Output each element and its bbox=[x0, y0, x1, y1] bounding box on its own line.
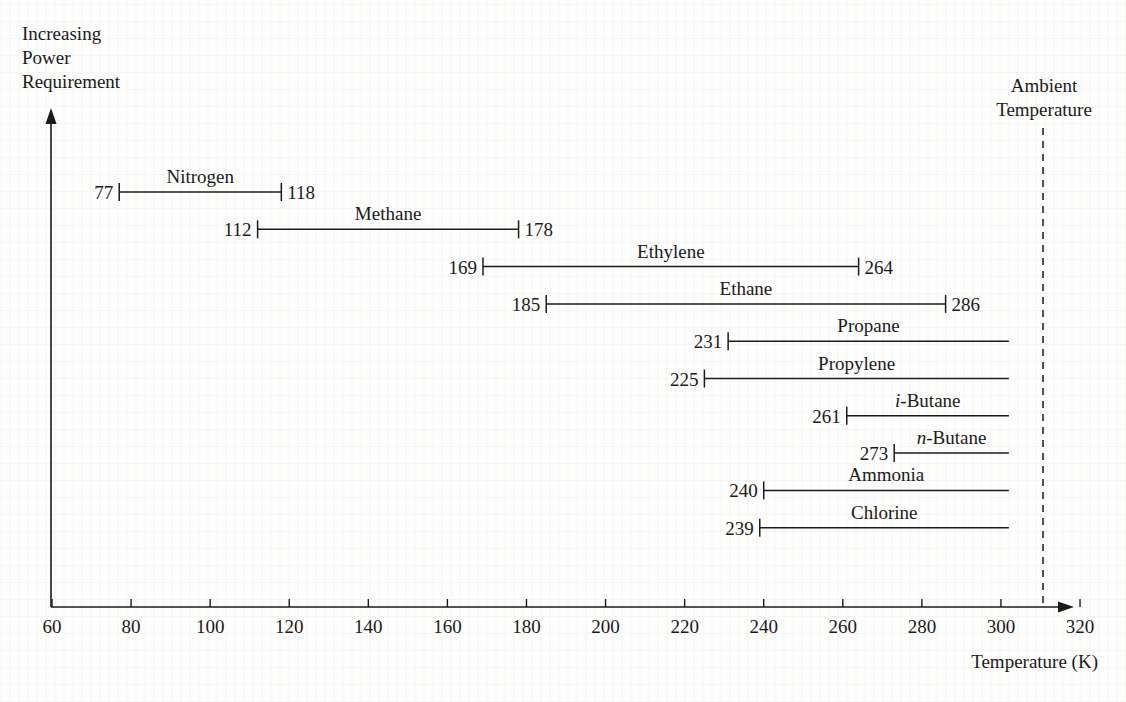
range-bar: 273n-Butane bbox=[860, 427, 1009, 464]
range-bar: 77118Nitrogen bbox=[94, 166, 315, 203]
x-axis-tick-label: 320 bbox=[1066, 616, 1095, 637]
x-axis-tick-label: 240 bbox=[749, 616, 778, 637]
range-bar-start-value: 112 bbox=[224, 219, 252, 240]
y-axis-label-line-2: Power bbox=[22, 47, 71, 68]
range-bar-start-value: 77 bbox=[94, 182, 113, 203]
range-bar-label: Ammonia bbox=[848, 464, 925, 485]
x-axis-tick-label: 120 bbox=[275, 616, 304, 637]
x-axis-arrowhead bbox=[1058, 602, 1074, 613]
x-axis-ticks: 6080100120140160180200220240260280300320 bbox=[43, 599, 1095, 637]
x-axis-tick-label: 200 bbox=[591, 616, 620, 637]
x-axis-tick-label: 160 bbox=[433, 616, 462, 637]
y-axis bbox=[46, 108, 57, 607]
x-axis: 6080100120140160180200220240260280300320 bbox=[43, 599, 1095, 637]
x-axis-tick-label: 280 bbox=[908, 616, 937, 637]
y-axis-label-line-1: Increasing bbox=[22, 23, 102, 44]
range-bar-label: n-Butane bbox=[917, 427, 987, 448]
range-bar-label: Nitrogen bbox=[167, 166, 235, 187]
range-bar-label: Ethane bbox=[720, 278, 773, 299]
range-bar: 231Propane bbox=[694, 315, 1009, 352]
range-bar: 169264Ethylene bbox=[448, 241, 893, 278]
x-axis-tick-label: 220 bbox=[670, 616, 699, 637]
x-axis-tick-label: 80 bbox=[122, 616, 141, 637]
range-bar: 240Ammonia bbox=[729, 464, 1009, 501]
range-bar: 185286Ethane bbox=[512, 278, 980, 315]
range-bar: 112178Methane bbox=[224, 203, 553, 240]
range-bar-start-value: 231 bbox=[694, 331, 723, 352]
range-bar-label: Propylene bbox=[818, 353, 895, 374]
range-bar-start-value: 185 bbox=[512, 294, 541, 315]
y-axis-label: Increasing Power Requirement bbox=[22, 23, 121, 92]
bar-group: 77118Nitrogen112178Methane169264Ethylene… bbox=[94, 166, 1009, 539]
range-bar-end-value: 286 bbox=[952, 294, 981, 315]
ambient-label-line-1: Ambient bbox=[1011, 75, 1078, 96]
range-bar-label: Methane bbox=[355, 203, 421, 224]
range-bar-start-value: 239 bbox=[725, 518, 754, 539]
range-bar-label: Ethylene bbox=[637, 241, 705, 262]
ambient-label-line-2: Temperature bbox=[996, 99, 1092, 120]
x-axis-tick-label: 260 bbox=[829, 616, 858, 637]
range-bar: 225Propylene bbox=[670, 353, 1009, 390]
refrigerant-temperature-range-chart: 6080100120140160180200220240260280300320… bbox=[0, 0, 1126, 702]
range-bar-start-value: 261 bbox=[812, 406, 841, 427]
range-bar-start-value: 273 bbox=[860, 443, 889, 464]
y-axis-label-line-3: Requirement bbox=[22, 71, 121, 92]
range-bar-end-value: 264 bbox=[865, 257, 894, 278]
range-bar-start-value: 169 bbox=[448, 257, 477, 278]
range-bar-label: Propane bbox=[837, 315, 899, 336]
range-bar-label: i-Butane bbox=[895, 390, 960, 411]
ambient-temperature-label: Ambient Temperature bbox=[996, 75, 1092, 120]
range-bar-start-value: 240 bbox=[729, 480, 758, 501]
range-bar: 261i-Butane bbox=[812, 390, 1009, 427]
range-bar-end-value: 178 bbox=[525, 219, 554, 240]
figure-page: 6080100120140160180200220240260280300320… bbox=[0, 0, 1126, 702]
range-bar-start-value: 225 bbox=[670, 369, 699, 390]
range-bar-label: Chlorine bbox=[851, 502, 918, 523]
x-axis-tick-label: 140 bbox=[354, 616, 383, 637]
x-axis-tick-label: 60 bbox=[43, 616, 62, 637]
x-axis-tick-label: 300 bbox=[987, 616, 1016, 637]
range-bar-end-value: 118 bbox=[287, 182, 315, 203]
x-axis-tick-label: 100 bbox=[196, 616, 225, 637]
x-axis-tick-label: 180 bbox=[512, 616, 541, 637]
range-bar: 239Chlorine bbox=[725, 502, 1009, 539]
x-axis-title: Temperature (K) bbox=[971, 651, 1098, 673]
y-axis-arrowhead bbox=[46, 108, 57, 124]
